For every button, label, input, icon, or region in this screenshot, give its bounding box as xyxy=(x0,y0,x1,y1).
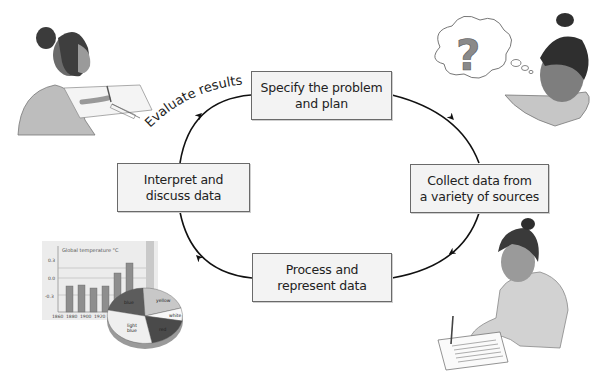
svg-text:yellow: yellow xyxy=(156,298,171,303)
student-recording-data-icon xyxy=(438,218,568,370)
arrow-collect-to-process xyxy=(392,213,479,278)
student-writing-icon xyxy=(18,27,152,135)
arrow-interpret-to-specify xyxy=(180,95,251,163)
step-collect-data: Collect data from a variety of sources xyxy=(410,164,549,213)
svg-text:1900: 1900 xyxy=(80,314,92,319)
svg-text:0.3: 0.3 xyxy=(48,258,55,263)
svg-text:blue: blue xyxy=(127,328,137,333)
svg-text:0.0: 0.0 xyxy=(48,276,55,281)
step-specify-problem: Specify the problem and plan xyxy=(251,71,392,120)
mini-chart-title: Global temperature °C xyxy=(62,247,119,254)
svg-text:red: red xyxy=(159,327,167,332)
step-label: Process and represent data xyxy=(277,262,366,294)
svg-text:-0.3: -0.3 xyxy=(45,294,54,299)
step-label: Interpret and discuss data xyxy=(144,172,224,204)
arrow-specify-to-collect xyxy=(392,95,479,163)
svg-text:1880: 1880 xyxy=(66,314,78,319)
arrow-process-to-interpret xyxy=(180,212,252,278)
step-interpret-data: Interpret and discuss data xyxy=(117,163,250,212)
svg-text:1860: 1860 xyxy=(52,314,64,319)
svg-text:1920: 1920 xyxy=(94,314,106,319)
step-label: Collect data from a variety of sources xyxy=(420,173,539,205)
data-cycle-diagram: Evaluate results ? xyxy=(0,0,606,378)
student-thinking-question-icon: ? xyxy=(435,13,590,126)
question-mark-icon: ? xyxy=(456,31,480,80)
step-process-data: Process and represent data xyxy=(252,253,392,302)
svg-text:blue: blue xyxy=(124,300,134,305)
evaluate-results-label: Evaluate results xyxy=(142,73,244,131)
svg-text:white: white xyxy=(169,313,182,318)
step-label: Specify the problem and plan xyxy=(261,80,383,112)
chart-and-pie-icon: Global temperature °C 0.3 0.0 -0.3 1860 … xyxy=(42,241,183,349)
